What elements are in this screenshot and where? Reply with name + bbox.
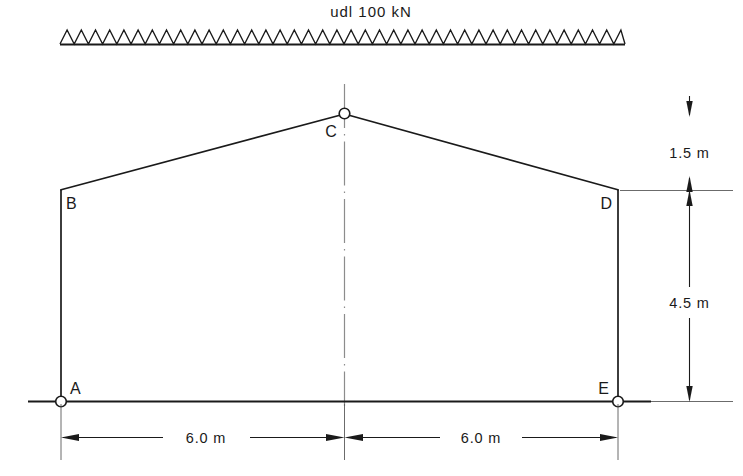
frame-members <box>60 114 619 401</box>
dimension-column-4-5m: 4.5 m <box>669 190 709 402</box>
dim-label-span-left: 6.0 m <box>186 430 226 446</box>
member-B-C <box>60 114 344 190</box>
joint-label-E: E <box>598 380 609 397</box>
dimension-rise-1-5m: 1.5 m <box>669 96 709 192</box>
dim-label-rise: 1.5 m <box>669 145 709 161</box>
arrow-span-left-start <box>61 434 79 441</box>
dimension-span-right-6m: 6.0 m <box>345 430 619 446</box>
joint-label-B: B <box>66 195 77 212</box>
arrow-rise-up <box>686 176 692 192</box>
joint-C-hinge <box>339 108 350 119</box>
joint-label-D: D <box>600 195 612 212</box>
udl-load-symbol <box>60 30 625 45</box>
dim-label-span-right: 6.0 m <box>461 430 501 446</box>
udl-zigzag <box>60 30 625 44</box>
portal-frame-diagram: udl 100 kN B C D <box>0 0 743 476</box>
dimension-span-left-6m: 6.0 m <box>61 430 345 446</box>
joint-label-A: A <box>70 380 81 397</box>
arrow-span-right-start <box>345 434 364 441</box>
dim-label-column: 4.5 m <box>669 295 709 311</box>
joint-label-C: C <box>325 123 337 140</box>
joints <box>56 108 624 407</box>
member-C-D <box>345 114 619 190</box>
arrow-span-left-end <box>326 434 345 441</box>
udl-title: udl 100 kN <box>330 3 412 20</box>
arrow-column-up <box>686 190 692 206</box>
arrow-span-right-end <box>600 434 618 441</box>
arrow-rise-down <box>686 101 692 117</box>
arrow-column-down <box>686 386 692 402</box>
